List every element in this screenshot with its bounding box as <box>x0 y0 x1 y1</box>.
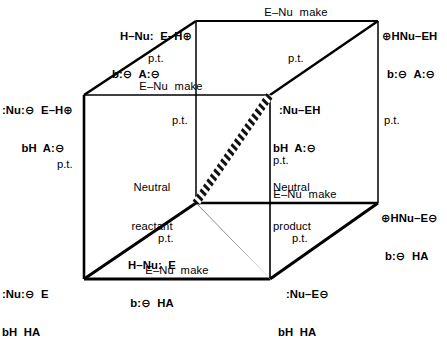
vertex-top-back-right: ⊕HNu–EH b:⊖ A:⊖ <box>382 4 447 107</box>
edge-label-bottom-front: E–Nu make <box>113 264 241 277</box>
vertex-bottom-back-right: ⊕HNu–E⊖ b:⊖ HA <box>381 186 447 289</box>
edge-label-vertical-right: p.t. <box>384 114 400 127</box>
vertex-bottom-back-left: Neutral reactant H–Nu: E b:⊖ HA <box>106 155 198 336</box>
edge-label-vertical-left: p.t. <box>57 158 73 171</box>
vertex-top-front-right: :Nu–EH bH A:⊖ Neutral product <box>273 78 357 259</box>
edge-label-top-front: E–Nu make <box>107 80 235 93</box>
edge-label-vertical-right-inner: p.t. <box>273 154 289 167</box>
edge-label-bottom-back: E–Nu make <box>241 188 369 201</box>
edge-label-vertical-mid: p.t. <box>172 114 188 127</box>
edge-label-depth-bottom-left: p.t. <box>158 232 174 245</box>
vertex-bottom-front-left: :Nu:⊖ E bH HA <box>2 262 80 340</box>
edge-label-top-back: E–Nu make <box>232 6 360 19</box>
edge-label-depth-top-right: p.t. <box>288 52 304 65</box>
vertex-bottom-front-right: :Nu–E⊖ bH HA <box>278 262 362 340</box>
edge-label-depth-bottom-right: p.t. <box>292 232 308 245</box>
edge-label-depth-top-left: p.t. <box>148 52 164 65</box>
